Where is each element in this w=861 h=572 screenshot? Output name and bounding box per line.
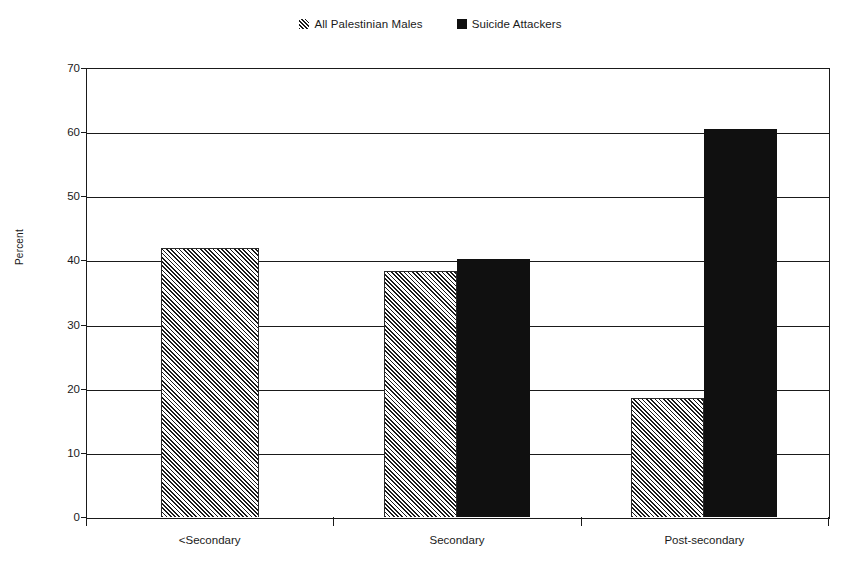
bars-layer bbox=[86, 68, 828, 517]
x-category-label: Secondary bbox=[430, 534, 485, 546]
y-tick-label: 20 bbox=[67, 383, 80, 395]
black-square-icon bbox=[457, 19, 467, 29]
bar-suicide-attackers-secondary bbox=[457, 259, 530, 517]
bar-suicide-attackers-post-secondary bbox=[704, 129, 777, 517]
legend-item-all-palestinian-males: All Palestinian Males bbox=[299, 18, 422, 30]
y-tick-label: 50 bbox=[67, 190, 80, 202]
legend-item-suicide-attackers: Suicide Attackers bbox=[457, 18, 562, 30]
hatched-square-icon bbox=[299, 19, 309, 29]
x-tick-mark bbox=[333, 517, 334, 526]
y-tick-label: 30 bbox=[67, 319, 80, 331]
y-axis: 010203040506070 bbox=[40, 68, 80, 517]
x-tick-mark bbox=[828, 517, 829, 526]
y-tick-label: 10 bbox=[67, 447, 80, 459]
chart-legend: All Palestinian Males Suicide Attackers bbox=[0, 18, 861, 30]
bar-all-palestinian-males-secondary bbox=[384, 271, 457, 517]
y-tick-label: 40 bbox=[67, 254, 80, 266]
x-category-label: Post-secondary bbox=[664, 534, 744, 546]
y-axis-title: Percent bbox=[14, 229, 25, 265]
legend-label: All Palestinian Males bbox=[314, 18, 422, 30]
y-tick-label: 0 bbox=[74, 511, 80, 523]
x-category-label: <Secondary bbox=[179, 534, 241, 546]
bar-chart: All Palestinian Males Suicide Attackers … bbox=[0, 0, 861, 572]
y-tick-label: 60 bbox=[67, 126, 80, 138]
bar-all-palestinian-males-post-secondary bbox=[631, 398, 704, 517]
y-tick-label: 70 bbox=[67, 62, 80, 74]
x-tick-mark bbox=[581, 517, 582, 526]
x-tick-mark bbox=[86, 517, 87, 526]
legend-label: Suicide Attackers bbox=[472, 18, 562, 30]
bar-all-palestinian-males--secondary bbox=[161, 248, 259, 517]
